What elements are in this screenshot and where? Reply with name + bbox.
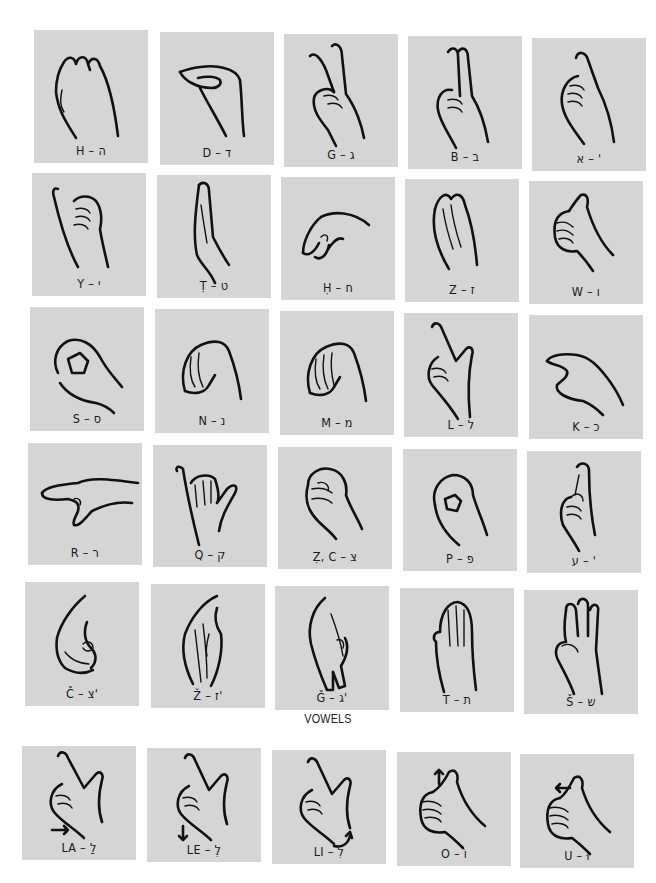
sign-tile-ayin: ע – ' — [527, 451, 641, 573]
sign-tile-kaf: K – כ — [529, 315, 643, 439]
sign-label: ע – ' — [527, 553, 641, 568]
sign-tile-samekh: S – ס — [30, 307, 144, 431]
sign-tile-resh: R – ר — [28, 443, 142, 565]
sign-label: LI – לִ — [272, 844, 386, 859]
sign-tile-d: D – ד — [160, 32, 274, 165]
sign-label: א – ' — [532, 151, 646, 166]
consonant-row-4: R – ר Q – ק Ẓ, C – צ P – פ ע – ' — [0, 443, 656, 578]
vowel-tile-li: LI – לִ — [272, 750, 386, 864]
sign-label: W – ו — [529, 284, 643, 299]
sign-label: LA – לַ — [22, 840, 136, 855]
sign-tile-tsadi: Ẓ, C – צ — [278, 447, 392, 569]
sign-label: Ẓ, C – צ — [278, 549, 392, 564]
sign-label: U – וּ — [520, 848, 634, 863]
sign-tile-z: Z – ז — [405, 179, 519, 302]
sign-tile-shin: Š – ש — [524, 590, 638, 714]
vowel-tile-u: U – וּ — [520, 754, 634, 868]
sign-label: M – מ — [280, 415, 394, 430]
sign-label: Ṭ – ט — [157, 278, 271, 293]
sign-tile-lamed: L – ל — [404, 313, 518, 437]
sign-label: Q – ק — [153, 547, 267, 562]
vowel-tile-la: LA – לַ — [22, 746, 136, 860]
sign-label: Ǧ – ג' — [275, 690, 389, 705]
sign-tile-y: Y – י — [32, 173, 146, 296]
consonant-row-1: H – ה D – ד G – ג B – ב א – ' — [0, 30, 656, 165]
sign-label: P – פ — [403, 551, 517, 566]
sign-tile-tav: T – ת — [400, 588, 514, 712]
sign-label: S – ס — [30, 411, 144, 426]
sign-tile-pe: P – פ — [403, 449, 517, 571]
sign-label: LE – לֶ — [147, 842, 261, 857]
sign-label: B – ב — [408, 149, 522, 164]
sign-tile-vav: W – ו — [529, 181, 643, 304]
sign-label: G – ג — [284, 147, 398, 162]
vowel-tile-o: O – וֹ — [397, 752, 511, 866]
vowels-heading: VOWELS — [33, 712, 623, 726]
consonant-row-3: S – ס N – נ M – מ L – ל K – כ — [0, 307, 656, 442]
sign-tile-b: B – ב — [408, 36, 522, 169]
sign-label: N – נ — [155, 413, 269, 428]
sign-label: D – ד — [160, 145, 274, 160]
sign-tile-het: Ḥ – ח — [281, 177, 395, 300]
sign-label: Ž – ז' — [151, 688, 265, 703]
consonant-row-5: Č – צ' Ž – ז' Ǧ – ג' T – ת Š – ש — [0, 582, 656, 717]
sign-label: Ḥ – ח — [281, 280, 395, 295]
sign-tile-alef: א – ' — [532, 38, 646, 171]
sign-tile-qof: Q – ק — [153, 445, 267, 567]
consonant-row-2: Y – י Ṭ – ט Ḥ – ח Z – ז W – ו — [0, 173, 656, 308]
sign-tile-g: G – ג — [284, 34, 398, 167]
sign-label: R – ר — [28, 545, 142, 560]
sign-tile-nun: N – נ — [155, 309, 269, 433]
sign-label: Y – י — [32, 276, 146, 291]
sign-tile-tet: Ṭ – ט — [157, 175, 271, 298]
sign-label: H – ה — [34, 143, 148, 158]
sign-tile-gimel-geresh: Ǧ – ג' — [275, 586, 389, 710]
vowel-tile-le: LE – לֶ — [147, 748, 261, 862]
vowel-row: LA – לַ LE – לֶ LI – לִ O – וֹ U – וּ — [0, 746, 656, 881]
sign-tile-zayin-geresh: Ž – ז' — [151, 584, 265, 708]
sign-label: O – וֹ — [397, 846, 511, 861]
sign-tile-tsadi-geresh: Č – צ' — [25, 582, 139, 706]
sign-label: K – כ — [529, 419, 643, 434]
sign-label: T – ת — [400, 692, 514, 707]
sign-label: L – ל — [404, 417, 518, 432]
sign-label: Š – ש — [524, 694, 638, 709]
sign-tile-h: H – ה — [34, 30, 148, 163]
sign-tile-mem: M – מ — [280, 311, 394, 435]
sign-label: Č – צ' — [25, 686, 139, 701]
sign-label: Z – ז — [405, 282, 519, 297]
